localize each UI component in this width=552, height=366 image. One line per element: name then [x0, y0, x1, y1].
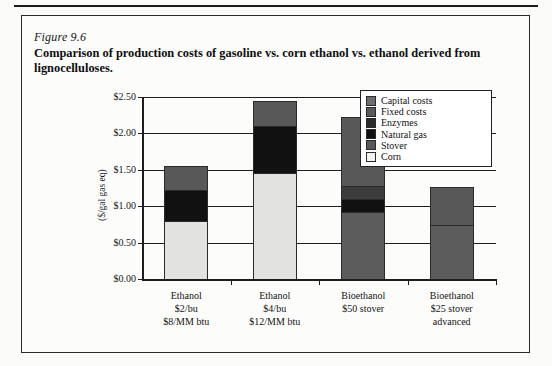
legend-label: Fixed costs: [381, 106, 426, 117]
x-tick-mark: [496, 280, 497, 285]
legend-swatch-icon: [366, 129, 376, 139]
x-category-line: $12/MM btu: [231, 315, 320, 328]
x-category-line: Ethanol: [231, 289, 320, 302]
chart-plot-area: ($/gal gas eq)$2.50$2.00$1.50$1.00$0.50$…: [0, 0, 552, 366]
x-category-label: Ethanol$2/bu$8/MM btu: [142, 289, 231, 328]
bar-segment-natural-gas: [253, 126, 297, 173]
legend-swatch-icon: [366, 152, 376, 162]
legend-item-stover: Stover: [366, 140, 484, 151]
figure-page: Figure 9.6 Comparison of production cost…: [0, 0, 552, 366]
bar-segment-fixed-costs: [430, 187, 474, 226]
legend-label: Enzymes: [381, 117, 418, 128]
legend-swatch-icon: [366, 118, 376, 128]
x-tick-mark: [408, 280, 409, 285]
legend-swatch-icon: [366, 140, 376, 150]
x-category-label: Ethanol$4/bu$12/MM btu: [231, 289, 320, 328]
legend-item-corn: Corn: [366, 151, 484, 162]
bar-segment-enzymes: [341, 186, 385, 199]
legend-label: Stover: [381, 140, 407, 151]
legend-item-fixed-costs: Fixed costs: [366, 106, 484, 117]
legend-swatch-icon: [366, 107, 376, 117]
x-category-label: Bioethanol$25 stoveradvanced: [408, 289, 497, 328]
y-tick-label: $1.00: [90, 200, 136, 211]
x-tick-mark: [231, 280, 232, 285]
legend-label: Corn: [381, 151, 401, 162]
x-category-line: $50 stover: [319, 302, 408, 315]
y-tick-label: $0.00: [90, 273, 136, 284]
bar-segment-fixed-costs: [253, 101, 297, 126]
legend-item-enzymes: Enzymes: [366, 117, 484, 128]
chart-legend: Capital costsFixed costsEnzymesNatural g…: [360, 90, 492, 167]
bar-segment-stover: [341, 212, 385, 279]
x-category-line: $4/bu: [231, 302, 320, 315]
bar-segment-natural-gas: [164, 190, 208, 221]
bar-segment-natural-gas: [341, 199, 385, 212]
x-category-line: advanced: [408, 315, 497, 328]
y-axis-line: [142, 97, 144, 280]
legend-item-natural-gas: Natural gas: [366, 129, 484, 140]
x-category-line: Bioethanol: [319, 289, 408, 302]
x-tick-mark: [319, 280, 320, 285]
x-category-line: Bioethanol: [408, 289, 497, 302]
bar-segment-stover: [430, 225, 474, 279]
y-tick-label: $2.50: [90, 91, 136, 102]
bar-2: [253, 97, 297, 279]
bar-1: [164, 97, 208, 279]
x-category-line: $2/bu: [142, 302, 231, 315]
legend-label: Capital costs: [381, 95, 432, 106]
x-category-line: $25 stover: [408, 302, 497, 315]
bar-segment-corn: [253, 173, 297, 279]
legend-label: Natural gas: [381, 129, 427, 140]
bar-segment-fixed-costs: [164, 166, 208, 190]
y-axis-title: ($/gal gas eq): [97, 169, 107, 221]
bar-segment-corn: [164, 221, 208, 279]
legend-item-capital-costs: Capital costs: [366, 95, 484, 106]
x-category-line: Ethanol: [142, 289, 231, 302]
y-tick-label: $2.00: [90, 127, 136, 138]
y-tick-label: $1.50: [90, 164, 136, 175]
x-category-line: $8/MM btu: [142, 315, 231, 328]
x-category-label: Bioethanol$50 stover: [319, 289, 408, 315]
legend-swatch-icon: [366, 96, 376, 106]
y-tick-label: $0.50: [90, 237, 136, 248]
